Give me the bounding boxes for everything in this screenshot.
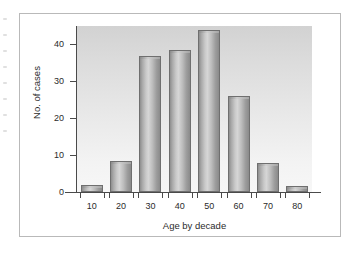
x-tick: [280, 192, 281, 198]
x-tick: [197, 192, 198, 198]
bar-chart: 010203040 1020304050607080 No. of cases …: [20, 14, 342, 238]
bar: [110, 161, 132, 192]
x-tick-label: 30: [138, 201, 162, 211]
x-tick: [227, 192, 228, 198]
x-tick: [80, 192, 81, 198]
bar-series: [77, 26, 312, 192]
x-tick: [168, 192, 169, 198]
y-axis-title: No. of cases: [31, 38, 42, 148]
figure-frame: 010203040 1020304050607080 No. of cases …: [19, 13, 341, 237]
x-tick-label: 40: [168, 201, 192, 211]
y-tick-label: 30: [44, 76, 64, 86]
x-tick: [285, 192, 286, 198]
x-tick: [221, 192, 222, 198]
plot-area: [77, 26, 312, 192]
bar: [257, 163, 279, 193]
bar: [198, 30, 220, 192]
x-axis-title: Age by decade: [77, 220, 312, 231]
x-tick: [192, 192, 193, 198]
page-canvas: 010203040 1020304050607080 No. of cases …: [0, 0, 348, 258]
x-tick: [162, 192, 163, 198]
bar: [139, 56, 161, 192]
y-axis-ticks: 010203040: [20, 14, 76, 238]
y-axis-line: [76, 26, 77, 193]
x-tick-label: 70: [256, 201, 280, 211]
x-tick-label: 20: [109, 201, 133, 211]
scan-artifact-marks: [3, 18, 10, 158]
x-tick: [138, 192, 139, 198]
x-tick: [251, 192, 252, 198]
y-tick-label: 40: [44, 39, 64, 49]
x-tick-label: 50: [197, 201, 221, 211]
x-tick-label: 10: [80, 201, 104, 211]
x-tick: [256, 192, 257, 198]
x-tick-label: 60: [227, 201, 251, 211]
bar: [228, 96, 250, 192]
y-tick-label: 20: [44, 113, 64, 123]
bar: [169, 50, 191, 192]
y-tick-label: 0: [44, 187, 64, 197]
y-tick-label: 10: [44, 150, 64, 160]
x-tick-label: 80: [285, 201, 309, 211]
x-tick: [109, 192, 110, 198]
bar: [81, 185, 103, 192]
x-tick: [133, 192, 134, 198]
x-tick: [309, 192, 310, 198]
x-tick: [104, 192, 105, 198]
